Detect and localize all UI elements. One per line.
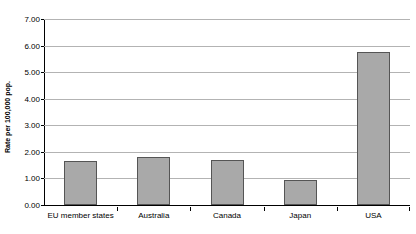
bar [137, 157, 170, 205]
x-axis-tick-mark [337, 207, 338, 211]
x-axis-tick-mark [409, 207, 410, 211]
bars-layer [44, 19, 410, 205]
bar-chart: Rate per 100,000 pop. 0.001.002.003.004.… [0, 0, 416, 234]
x-axis-tick-label: Japan [264, 211, 337, 220]
x-axis-labels: EU member statesAustraliaCanadaJapanUSA [44, 207, 410, 227]
x-axis-tick-label: EU member states [44, 211, 117, 220]
bar [357, 52, 390, 205]
bar [64, 161, 97, 205]
bar [284, 180, 317, 205]
x-axis-tick-label: Australia [117, 211, 190, 220]
x-axis-tick-label: USA [337, 211, 410, 220]
gridline [44, 205, 410, 206]
x-axis-tick-mark [264, 207, 265, 211]
x-axis-tick-mark [190, 207, 191, 211]
x-axis-tick-label: Canada [190, 211, 263, 220]
bar [211, 160, 244, 205]
y-axis-tick-marks [0, 19, 44, 205]
x-axis-tick-mark [117, 207, 118, 211]
